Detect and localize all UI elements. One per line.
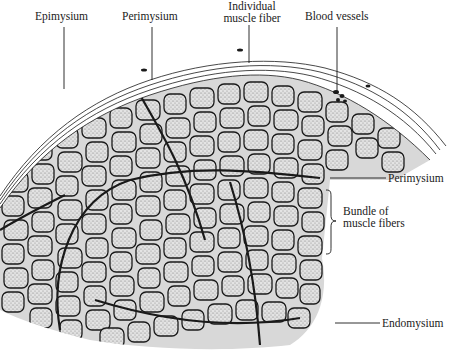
muscle-tissue [0,49,446,350]
label-epimysium: Epimysium [35,10,88,22]
label-perimysium-right: Perimysium [388,172,444,184]
label-bundle-line2: muscle fibers [343,217,405,229]
label-bundle-line1: Bundle of [343,205,389,217]
label-individual-muscle-fiber-line2: muscle fiber [212,12,292,24]
muscle-cross-section-illustration [0,0,454,361]
label-endomysium: Endomysium [382,317,443,329]
label-perimysium-top: Perimysium [122,10,178,22]
label-individual-muscle-fiber-line1: Individual [217,0,287,12]
label-blood-vessels: Blood vessels [305,10,369,22]
